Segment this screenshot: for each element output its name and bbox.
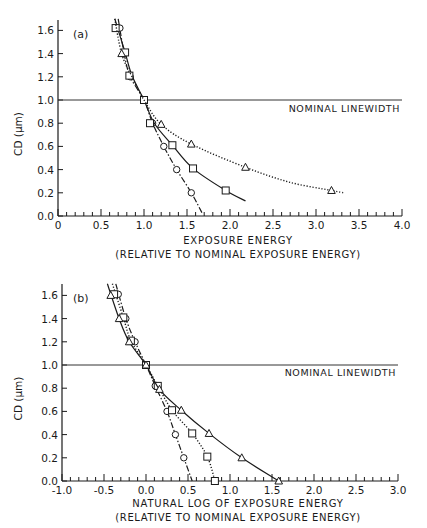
square-marker [222, 187, 229, 194]
x-axis-subtitle: (RELATIVE TO NOMINAL EXPOSURE ENERGY) [115, 512, 360, 523]
triangle-marker [157, 120, 165, 127]
x-tick-label: 0.5 [180, 484, 197, 496]
x-tick-label: 3.5 [351, 219, 368, 231]
square-marker [211, 478, 218, 485]
square-marker [169, 407, 176, 414]
series-curve-circles [118, 19, 202, 214]
chart-panel-b: 0.00.20.40.60.81.01.21.41.6-1.0-0.50.00.… [12, 284, 406, 523]
x-axis-title: NATURAL LOG OF EXPOSURE ENERGY [132, 498, 344, 509]
x-tick-label: -0.5 [94, 484, 115, 496]
y-tick-label: 0.2 [41, 452, 58, 464]
y-tick-label: 0.4 [37, 164, 54, 176]
circle-marker [172, 431, 178, 437]
nominal-linewidth-label: NOMINAL LINEWIDTH [289, 103, 400, 114]
triangle-marker [188, 140, 196, 147]
triangle-marker [238, 454, 246, 461]
series-curve-triangles [107, 284, 278, 481]
square-marker [169, 142, 176, 149]
square-marker [147, 120, 154, 127]
y-tick-label: 1.0 [37, 94, 54, 106]
panel-label: (a) [73, 28, 88, 41]
triangle-marker [205, 429, 213, 436]
x-tick-label: 0.0 [138, 484, 155, 496]
circle-marker [173, 166, 179, 172]
x-tick-label: 0.5 [93, 219, 110, 231]
y-tick-label: 0.8 [41, 382, 58, 394]
square-marker [190, 165, 197, 172]
x-tick-label: 3.0 [390, 484, 407, 496]
x-tick-label: 2.0 [306, 484, 323, 496]
x-axis-title: EXPOSURE ENERGY [183, 235, 293, 246]
y-axis-title: CD (μm) [12, 112, 24, 156]
x-tick-label: 1.5 [264, 484, 281, 496]
circle-marker [161, 143, 167, 149]
nominal-linewidth-label: NOMINAL LINEWIDTH [285, 367, 396, 378]
y-tick-label: 1.2 [41, 336, 58, 348]
x-tick-label: 1.0 [222, 484, 239, 496]
figure: 0.00.20.40.60.81.01.21.41.600.51.01.52.0… [0, 0, 427, 528]
x-tick-label: 4.0 [394, 219, 411, 231]
x-tick-label: 2.5 [348, 484, 365, 496]
x-tick-label: 1.5 [179, 219, 196, 231]
y-tick-label: 0.6 [41, 405, 58, 417]
y-tick-label: 0.2 [37, 187, 54, 199]
circle-marker [181, 455, 187, 461]
x-tick-label: -1.0 [52, 484, 73, 496]
triangle-marker [328, 186, 336, 193]
series-curve-squares [115, 19, 246, 201]
y-tick-label: 1.4 [41, 313, 58, 325]
x-tick-label: 0 [55, 219, 62, 231]
series-curve-squares [112, 284, 214, 481]
y-tick-label: 0.6 [37, 140, 54, 152]
chart-panel-a: 0.00.20.40.60.81.01.21.41.600.51.01.52.0… [12, 19, 410, 260]
square-marker [126, 72, 133, 79]
x-tick-label: 1.0 [136, 219, 153, 231]
y-tick-label: 1.6 [37, 24, 54, 36]
y-tick-label: 1.0 [41, 359, 58, 371]
y-tick-label: 1.2 [37, 71, 54, 83]
triangle-marker [242, 163, 250, 170]
y-tick-label: 1.4 [37, 48, 54, 60]
x-tick-label: 3.0 [308, 219, 325, 231]
y-tick-label: 1.6 [41, 289, 58, 301]
x-tick-label: 2.0 [222, 219, 239, 231]
x-axis-subtitle: (RELATIVE TO NOMINAL EXPOSURE ENERGY) [115, 249, 360, 260]
y-tick-label: 0.0 [37, 210, 54, 222]
panel-label: (b) [73, 292, 89, 305]
y-tick-label: 0.8 [37, 117, 54, 129]
square-marker [204, 453, 211, 460]
square-marker [189, 430, 196, 437]
y-axis-title: CD (μm) [12, 377, 24, 421]
x-tick-label: 2.5 [265, 219, 282, 231]
circle-marker [188, 190, 194, 196]
y-tick-label: 0.4 [41, 429, 58, 441]
